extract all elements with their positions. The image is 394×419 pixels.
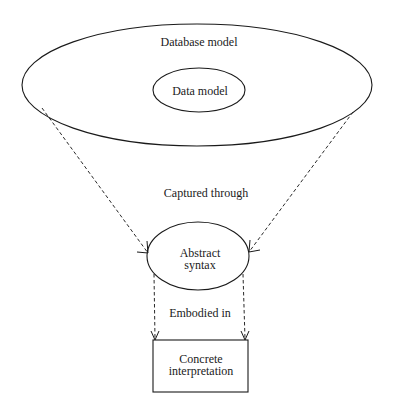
data-model-label: Data model: [172, 84, 228, 98]
embodied-in-arrow-right: [243, 274, 245, 339]
captured-through-edge: Captured through: [42, 108, 353, 253]
database-model-label: Database model: [161, 35, 239, 49]
embodied-in-label: Embodied in: [169, 306, 231, 320]
abstract-syntax-label-line2: syntax: [184, 258, 215, 272]
abstract-syntax-node: Abstract syntax: [147, 222, 249, 290]
embodied-in-edge: Embodied in: [151, 274, 249, 340]
concrete-interpretation-label-line2: interpretation: [169, 364, 234, 378]
captured-through-arrow-right: [249, 112, 353, 252]
diagram-canvas: Database model Data model Captured throu…: [0, 0, 394, 419]
captured-through-arrow-left: [42, 108, 148, 253]
concrete-interpretation-node: Concrete interpretation: [153, 340, 248, 392]
data-model-node: Data model: [153, 68, 245, 112]
arrowhead-icon: [249, 240, 260, 252]
embodied-in-arrow-left: [154, 274, 155, 339]
captured-through-label: Captured through: [164, 186, 248, 200]
